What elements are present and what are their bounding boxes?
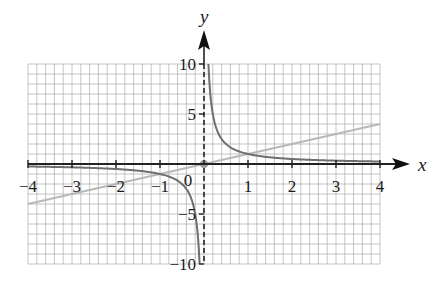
y-axis-label: y — [198, 6, 209, 27]
y-tick-label: −10 — [169, 255, 196, 274]
x-tick-label: 0 — [184, 171, 193, 190]
x-tick-label: 2 — [288, 177, 297, 196]
y-tick-label: 10 — [179, 55, 196, 74]
y-tick-label: −5 — [178, 205, 196, 224]
rational-function-graph: −4−3−2−101234−10−5510 x y — [0, 0, 436, 283]
x-tick-label: −1 — [151, 177, 169, 196]
x-tick-label: 1 — [244, 177, 253, 196]
x-tick-label: 3 — [332, 177, 341, 196]
x-tick-label: −2 — [107, 177, 125, 196]
axes — [28, 30, 410, 264]
x-tick-label: −4 — [19, 177, 38, 196]
x-tick-label: 4 — [376, 177, 385, 196]
x-axis-label: x — [417, 154, 427, 175]
hyperbola-right-branch — [208, 64, 380, 162]
y-tick-label: 5 — [188, 105, 197, 124]
x-tick-label: −3 — [63, 177, 81, 196]
